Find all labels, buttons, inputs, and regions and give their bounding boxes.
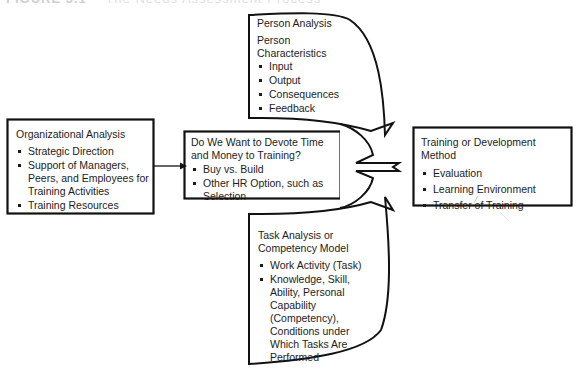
list-item: Support of Managers, Peers, and Employee… — [16, 159, 151, 198]
list-item: Strategic Direction — [16, 145, 151, 158]
training-method-list: Evaluation Learning Environment Transfer… — [421, 167, 569, 212]
person-analysis-subtitle: Person Characteristics — [257, 34, 337, 60]
person-analysis-title: Person Analysis — [257, 17, 367, 30]
list-item: Other HR Option, such as Selection — [191, 177, 339, 203]
convergence-arrow-shape — [340, 124, 399, 208]
person-analysis-list: Input Output Consequences Feedback — [257, 60, 367, 115]
task-analysis-list: Work Activity (Task) Knowledge, Skill, A… — [258, 259, 380, 364]
list-item: Input — [257, 60, 367, 73]
list-item: Work Activity (Task) — [258, 259, 380, 272]
list-item: Buy vs. Build — [191, 163, 339, 176]
list-item: Transfer of Training — [421, 199, 569, 212]
list-item: Learning Environment — [421, 183, 569, 196]
list-item: Training Resources — [16, 199, 151, 212]
training-method-title: Training or Development Method — [421, 136, 569, 162]
list-item: Consequences — [257, 88, 367, 101]
training-method: Training or Development Method Evaluatio… — [421, 136, 569, 215]
decision-list: Buy vs. Build Other HR Option, such as S… — [191, 163, 339, 203]
task-analysis: Task Analysis or Competency Model Work A… — [258, 229, 380, 365]
list-item: Evaluation — [421, 167, 569, 180]
organizational-analysis: Organizational Analysis Strategic Direct… — [16, 128, 151, 213]
list-item: Feedback — [257, 102, 367, 115]
task-analysis-title: Task Analysis or Competency Model — [258, 229, 358, 255]
list-item: Knowledge, Skill, Ability, Personal Capa… — [258, 273, 374, 364]
organizational-analysis-list: Strategic Direction Support of Managers,… — [16, 145, 151, 212]
list-item: Output — [257, 74, 367, 87]
person-analysis: Person Analysis Person Characteristics I… — [257, 17, 367, 116]
organizational-analysis-title: Organizational Analysis — [16, 128, 151, 141]
decision-title: Do We Want to Devote Time and Money to T… — [191, 136, 339, 162]
decision: Do We Want to Devote Time and Money to T… — [191, 136, 339, 204]
